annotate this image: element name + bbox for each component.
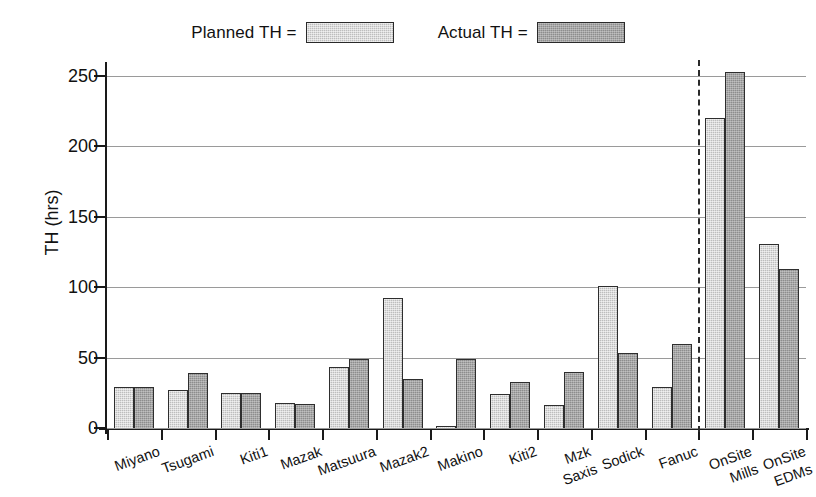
x-tick [537, 430, 539, 440]
bar-group [430, 359, 484, 428]
bar-group [591, 286, 645, 428]
section-divider [698, 60, 700, 432]
bar-actual [564, 372, 584, 428]
bar-group [107, 387, 161, 428]
gridline-0 [107, 428, 806, 429]
y-tick-label-100: 100 [68, 277, 98, 298]
plot-area: 050100150200250 [107, 76, 806, 428]
legend-swatch-planned [306, 22, 394, 43]
x-tick [161, 430, 163, 440]
bar-planned [329, 367, 349, 428]
bar-planned [652, 387, 672, 428]
y-tick-label-250: 250 [68, 66, 98, 87]
bar-actual [456, 359, 476, 428]
bar-group [752, 244, 806, 428]
bar-actual [672, 344, 692, 428]
x-tick [752, 430, 754, 440]
bar-actual [403, 379, 423, 428]
legend-label-planned: Planned TH = [191, 23, 296, 43]
bar-group [268, 403, 322, 428]
legend-entry-planned: Planned TH = [191, 22, 393, 43]
legend-label-actual: Actual TH = [438, 23, 528, 43]
bar-group [698, 72, 752, 428]
bar-group [645, 344, 699, 428]
x-tick [322, 430, 324, 440]
bar-group [322, 359, 376, 428]
bar-planned [705, 118, 725, 428]
x-tick [806, 430, 808, 440]
bar-actual [295, 404, 315, 428]
x-tick [483, 430, 485, 440]
bar-actual [725, 72, 745, 428]
bar-actual [188, 373, 208, 428]
legend-entry-actual: Actual TH = [438, 22, 625, 43]
bar-planned [759, 244, 779, 428]
bar-planned [221, 393, 241, 428]
bar-planned [544, 405, 564, 428]
bar-planned [490, 394, 510, 428]
x-tick [645, 430, 647, 440]
y-tick-label-0: 0 [88, 418, 98, 439]
bar-actual [241, 393, 261, 428]
x-tick [376, 430, 378, 440]
bar-planned [383, 298, 403, 428]
legend-swatch-actual [537, 22, 625, 43]
bar-chart: Planned TH = Actual TH = TH (hrs) 050100… [0, 0, 816, 497]
x-tick-origin [107, 430, 109, 440]
y-axis-title: TH (hrs) [42, 153, 63, 293]
bar-planned [598, 286, 618, 428]
bar-planned [436, 426, 456, 428]
x-tick [430, 430, 432, 440]
bar-actual [779, 269, 799, 428]
y-tick-label-50: 50 [78, 347, 98, 368]
bar-planned [275, 403, 295, 428]
bar-actual [618, 353, 638, 428]
bar-group [161, 373, 215, 428]
y-tick-label-200: 200 [68, 136, 98, 157]
bar-actual [349, 359, 369, 428]
y-tick-label-150: 150 [68, 206, 98, 227]
bar-group [537, 372, 591, 428]
x-tick [591, 430, 593, 440]
bar-group [215, 393, 269, 428]
bar-group [483, 382, 537, 428]
chart-legend: Planned TH = Actual TH = [0, 22, 816, 43]
x-tick [215, 430, 217, 440]
bar-actual [510, 382, 530, 428]
bar-planned [114, 387, 134, 428]
bar-group [376, 298, 430, 428]
bar-actual [134, 387, 154, 428]
bar-planned [168, 390, 188, 428]
x-tick [268, 430, 270, 440]
